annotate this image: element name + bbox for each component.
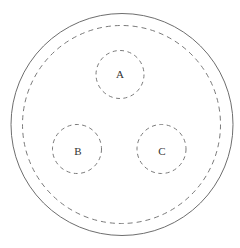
- node-b-label: B: [74, 145, 81, 157]
- node-c-label: C: [158, 145, 165, 157]
- node-c: C: [137, 125, 186, 174]
- outer-boundary-circle: [11, 14, 233, 236]
- node-a-label: A: [116, 68, 124, 80]
- inner-dashed-boundary-circle: [23, 26, 221, 224]
- venn-style-diagram: A B C: [0, 0, 240, 248]
- node-a: A: [96, 51, 144, 99]
- node-b: B: [53, 125, 102, 174]
